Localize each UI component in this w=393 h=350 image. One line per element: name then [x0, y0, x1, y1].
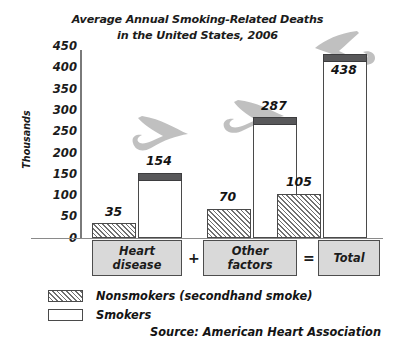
category-box-other-factors: Other factors — [203, 240, 297, 276]
bar-nonsmokers-total — [277, 194, 321, 238]
smoking-deaths-bar-chart: Average Annual Smoking-Related Deaths in… — [0, 0, 393, 350]
chart-source: Source: American Heart Association — [150, 325, 381, 339]
category-label-line-2: disease — [113, 258, 162, 272]
chart-legend: Nonsmokers (secondhand smoke) Smokers — [48, 288, 312, 326]
category-label-line-1: Heart — [119, 244, 155, 258]
category-box-heart-disease: Heart disease — [92, 240, 182, 276]
category-label-line-2: factors — [227, 258, 272, 272]
bar-value-smokers-total: 438 — [331, 64, 357, 76]
bar-smokers-heart-disease — [138, 173, 182, 238]
operator-equals: = — [303, 250, 315, 266]
bar-cap — [323, 54, 367, 62]
legend-item-smokers: Smokers — [48, 307, 312, 323]
bar-value-nonsmokers-total: 105 — [286, 176, 312, 188]
bar-nonsmokers-heart-disease — [92, 223, 136, 238]
category-box-total: Total — [318, 240, 380, 276]
category-label-other-factors: Other factors — [227, 244, 272, 272]
legend-label-nonsmokers: Nonsmokers (secondhand smoke) — [96, 289, 312, 303]
bar-smokers-total — [323, 54, 367, 238]
bar-value-nonsmokers-heart-disease: 35 — [105, 206, 122, 218]
legend-swatch-hatch-icon — [48, 290, 83, 303]
category-label-heart-disease: Heart disease — [113, 244, 162, 272]
bar-value-nonsmokers-other-factors: 70 — [219, 191, 236, 203]
legend-item-nonsmokers: Nonsmokers (secondhand smoke) — [48, 288, 312, 304]
bar-nonsmokers-other-factors — [207, 209, 251, 238]
bar-value-smokers-other-factors: 287 — [261, 100, 287, 112]
category-label-line-1: Other — [232, 244, 269, 258]
bar-value-smokers-heart-disease: 154 — [146, 155, 172, 167]
category-label-total: Total — [333, 251, 364, 265]
operator-plus: + — [188, 250, 200, 266]
legend-label-smokers: Smokers — [96, 308, 151, 322]
bar-cap — [253, 117, 297, 125]
legend-swatch-plain-icon — [48, 309, 83, 322]
bar-cap — [138, 173, 182, 181]
